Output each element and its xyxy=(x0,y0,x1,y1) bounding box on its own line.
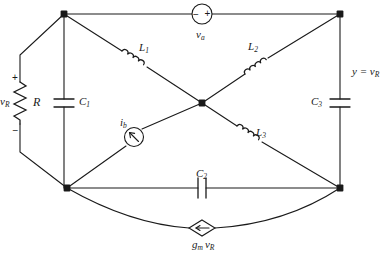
label-L3: L3 xyxy=(256,127,266,140)
current-source-ib-symbol xyxy=(125,128,144,147)
node-top-right xyxy=(337,11,344,18)
label-L1: L1 xyxy=(139,42,149,55)
wire-gmvr-to-bottomright xyxy=(215,188,340,228)
label-ib: ib xyxy=(120,117,127,130)
label-vR-sub: R xyxy=(5,100,10,109)
label-vR: vR xyxy=(0,96,9,109)
wire-center-to-L3 xyxy=(202,103,237,126)
label-ib-sub: b xyxy=(123,121,127,130)
node-center xyxy=(199,100,206,107)
label-va: va xyxy=(196,29,205,42)
node-bottom-left xyxy=(64,185,71,192)
label-output-sub: R xyxy=(375,70,380,79)
label-va-sub: a xyxy=(201,33,205,42)
wire-center-to-L2 xyxy=(202,74,245,103)
resistor-plus-sign: + xyxy=(12,73,18,83)
label-R: R xyxy=(33,96,40,108)
resistor-R-symbol xyxy=(14,82,26,124)
wire-L3-to-bottomright xyxy=(262,142,340,188)
label-L2-sub: 2 xyxy=(254,45,258,54)
wire-topleft-to-resistor xyxy=(20,14,64,82)
label-C3: C3 xyxy=(311,96,322,109)
capacitor-C1-symbol xyxy=(54,99,74,107)
wire-ib-to-center xyxy=(142,103,202,129)
va-minus-sign: − xyxy=(193,10,199,20)
dependent-source-gmvr-symbol xyxy=(189,220,215,236)
label-output-y: y = vR xyxy=(352,66,379,79)
label-C2-sub: 2 xyxy=(203,172,207,181)
label-gm-v-sub: R xyxy=(210,243,215,252)
label-C3-sub: 3 xyxy=(318,100,322,109)
node-bottom-right xyxy=(337,185,344,192)
wire-bottomleft-to-ib xyxy=(67,146,126,188)
node-top-left xyxy=(61,11,68,18)
wire-L2-to-topright xyxy=(268,14,340,58)
label-C1: C1 xyxy=(79,96,90,109)
circuit-diagram-canvas: − + va + − vR R C1 C3 C2 L1 L2 L3 ib gmv… xyxy=(0,0,392,253)
wire-topleft-to-L1 xyxy=(64,14,122,51)
label-gm-sub: m xyxy=(198,243,203,252)
wire-L1-to-center xyxy=(147,67,202,103)
capacitor-C2-symbol xyxy=(198,178,206,198)
label-output-text: y = v xyxy=(352,65,375,77)
label-L3-sub: 3 xyxy=(262,131,266,140)
inductor-L2-symbol xyxy=(243,57,266,74)
label-R-text: R xyxy=(33,95,40,109)
label-C2: C2 xyxy=(196,168,207,181)
label-L2: L2 xyxy=(248,41,258,54)
wire-resistor-to-bottomleft xyxy=(20,124,67,188)
label-L1-sub: 1 xyxy=(145,46,149,55)
capacitor-C3-symbol xyxy=(330,99,350,107)
va-plus-sign: + xyxy=(205,9,211,19)
resistor-minus-sign: − xyxy=(13,126,19,136)
wire-bottomleft-to-gmvr xyxy=(67,188,189,228)
label-C1-sub: 1 xyxy=(86,100,90,109)
label-gm-vR: gmvR xyxy=(192,239,214,252)
